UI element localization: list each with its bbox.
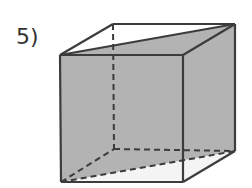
edge-front-left xyxy=(60,55,61,182)
cube-diagram xyxy=(0,0,252,188)
worksheet-figure: 5) xyxy=(0,0,252,188)
